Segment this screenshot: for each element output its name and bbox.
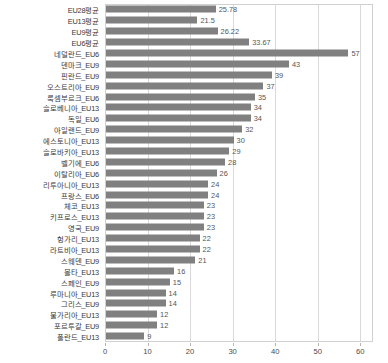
bar-value-label: 22 [200,245,211,254]
bar-value-label: 12 [157,310,168,319]
category-label: 네덜란드_EU6 [54,48,99,59]
category-label: 불가리아_EU13 [50,309,99,320]
category-label: 스페인_EU9 [61,276,99,287]
bar-row: 포르투갈_EU912 [0,320,388,331]
category-label: 아일랜드_EU9 [54,124,99,135]
bar [106,137,234,144]
bar-value-label: 43 [289,59,300,68]
bar-row: 벨기에_EU628 [0,156,388,167]
bar-row: 룩셈부르크_EU635 [0,91,388,102]
bar-chart: EU28평균25.78EU13평균21.5EU9평균26.22EU6평균33.6… [0,0,388,363]
bar-value-label: 23 [204,212,215,221]
bar-row: 스페인_EU915 [0,276,388,287]
category-label: 핀란드_EU9 [61,69,99,80]
bar-row: 슬로바키아_EU1329 [0,146,388,157]
bar [106,6,216,13]
bar-container: 21 [106,254,373,265]
bar [106,39,249,46]
bar-row: 영국_EU923 [0,222,388,233]
bar-container: 35 [106,91,373,102]
x-tick-label: 40 [271,347,279,356]
x-tick [190,343,191,346]
bar-container: 26 [106,167,373,178]
bar-container: 21.5 [106,15,373,26]
bar-container: 34 [106,102,373,113]
bar [106,158,225,165]
bar-container: 24 [106,178,373,189]
bar-value-label: 34 [251,103,262,112]
x-tick-label: 10 [143,347,151,356]
x-tick [105,343,106,346]
category-label: 프랑스_EU6 [61,189,99,200]
bar-container: 23 [106,200,373,211]
bar-row: 스웨덴_EU921 [0,254,388,265]
bar [106,322,157,329]
bar-value-label: 9 [144,332,151,341]
bar [106,267,174,274]
bar-value-label: 24 [208,179,219,188]
bar [106,278,170,285]
category-label: 체코_EU13 [64,200,99,211]
bar-value-label: 21 [195,255,206,264]
bar [106,246,200,253]
bar-container: 12 [106,309,373,320]
x-tick-label: 20 [186,347,194,356]
bar [106,333,144,340]
bar [106,50,348,57]
category-label: EU6평균 [72,37,99,48]
bar-container: 25.78 [106,4,373,15]
bar-row: 프랑스_EU624 [0,189,388,200]
bar-container: 32 [106,124,373,135]
category-label: 슬로베니아_EU13 [43,102,99,113]
bar-rows: EU28평균25.78EU13평균21.5EU9평균26.22EU6평균33.6… [0,4,388,342]
bar-value-label: 37 [263,81,274,90]
category-label: 리투아니아_EU13 [43,178,99,189]
category-label: 헝가리_EU13 [57,233,99,244]
bar [106,213,204,220]
bar-row: 체코_EU1323 [0,200,388,211]
bar-value-label: 21.5 [197,16,214,25]
bar-value-label: 39 [272,70,283,79]
category-label: EU9평균 [72,26,99,37]
bar-container: 23 [106,222,373,233]
category-label: 스웨덴_EU9 [61,254,99,265]
bar-value-label: 57 [348,49,359,58]
x-tick [318,343,319,346]
bar [106,289,166,296]
category-label: 룩셈부르크_EU6 [47,91,99,102]
bar-value-label: 35 [255,92,266,101]
category-label: 포르투갈_EU9 [54,320,99,331]
bar-value-label: 22 [200,234,211,243]
bar-container: 37 [106,80,373,91]
bar-value-label: 29 [229,147,240,156]
bar [106,93,255,100]
bar-value-label: 26.22 [218,27,240,36]
bar-row: 아일랜드_EU932 [0,124,388,135]
bar [106,126,242,133]
category-label: 에스토니아_EU13 [43,135,99,146]
x-tick-label: 30 [228,347,236,356]
bar-container: 30 [106,135,373,146]
bar-value-label: 15 [170,277,181,286]
bar-value-label: 32 [242,125,253,134]
bar [106,17,197,24]
bar-row: 그리스_EU914 [0,298,388,309]
bar-value-label: 26 [217,168,228,177]
x-tick [360,343,361,346]
bar-container: 39 [106,69,373,80]
bar-container: 33.67 [106,37,373,48]
category-label: 오스트리아_EU9 [47,80,99,91]
bar [106,180,208,187]
bar-container: 12 [106,320,373,331]
category-label: 그리스_EU9 [61,298,99,309]
bar-row: 네덜란드_EU657 [0,48,388,59]
bar-value-label: 25.78 [216,5,238,14]
bar [106,104,251,111]
x-tick-label: 50 [313,347,321,356]
bar [106,71,272,78]
bar-container: 22 [106,233,373,244]
bar-row: 폴란드_EU139 [0,331,388,342]
bar-value-label: 12 [157,321,168,330]
category-label: 슬로바키아_EU13 [43,146,99,157]
bar-value-label: 23 [204,223,215,232]
